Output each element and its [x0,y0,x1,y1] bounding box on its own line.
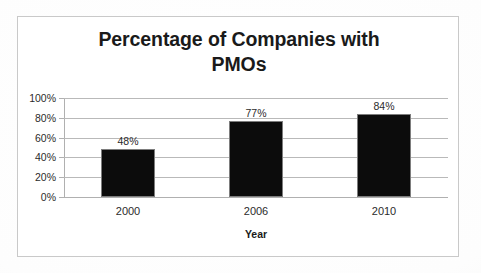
bar-value-label-2000: 48% [117,135,138,147]
y-tick-mark [59,138,64,139]
chart-frame: Percentage of Companies with PMOs 100%80… [17,16,459,257]
plot-area: 100%80%60%40%20%0% 48%200077%200684%2010 [64,98,448,197]
x-axis-title: Year [64,228,448,240]
gridline-100 [64,98,448,99]
bar-value-label-2010: 84% [373,100,394,112]
y-axis-label-20: 20% [35,171,56,183]
y-axis-label-100: 100% [29,92,56,104]
y-tick-mark [59,98,64,99]
y-axis-line [64,98,65,197]
y-axis-label-80: 80% [35,112,56,124]
x-axis-label-2006: 2006 [244,205,268,217]
bar-2000[interactable]: 48%2000 [101,149,155,197]
gridline-0 [64,197,448,198]
y-axis-label-0: 0% [41,191,56,203]
chart-title-line-2: PMOs [36,52,442,77]
chart-title: Percentage of Companies with PMOs [36,27,442,77]
y-tick-mark [59,118,64,119]
y-axis-label-60: 60% [35,132,56,144]
bar-value-label-2006: 77% [245,107,266,119]
y-tick-mark [59,197,64,198]
chart-title-line-1: Percentage of Companies with [36,27,442,52]
x-axis-label-2010: 2010 [372,205,396,217]
bar-2006[interactable]: 77%2006 [229,121,283,197]
x-axis-label-2000: 2000 [116,205,140,217]
y-axis-label-40: 40% [35,151,56,163]
y-tick-mark [59,157,64,158]
y-tick-mark [59,177,64,178]
bar-2010[interactable]: 84%2010 [357,114,411,197]
